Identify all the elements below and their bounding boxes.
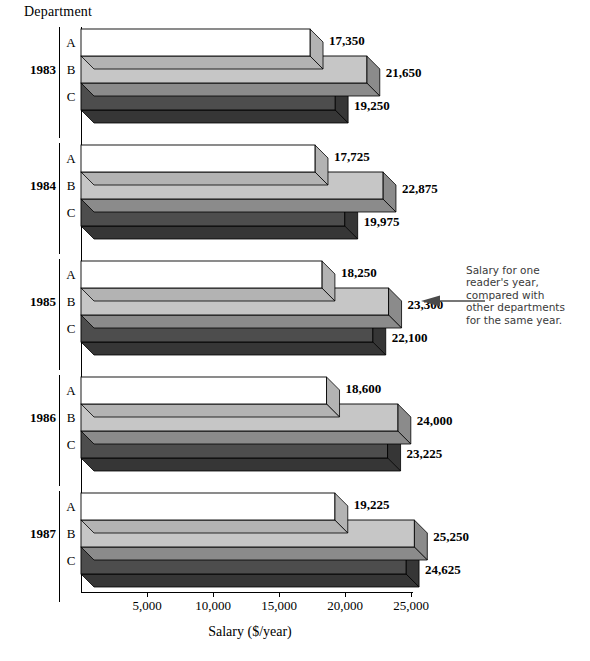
value-label-b-1984: 22,875 xyxy=(402,181,438,197)
value-label-b-1987: 25,250 xyxy=(433,529,469,545)
bar-a-1984 xyxy=(81,145,330,187)
value-label-c-1987: 24,625 xyxy=(425,562,461,578)
dept-label-b: B xyxy=(64,526,78,542)
value-label-a-1983: 17,350 xyxy=(329,33,365,49)
dept-label-b: B xyxy=(64,294,78,310)
x-axis-line xyxy=(81,592,413,593)
dept-label-c: C xyxy=(64,321,78,337)
group-year-label: 1983 xyxy=(12,62,56,78)
value-label-c-1986: 23,225 xyxy=(407,446,443,462)
value-label-a-1985: 18,250 xyxy=(341,265,377,281)
group-bracket xyxy=(59,27,60,138)
group-bracket xyxy=(59,143,60,254)
x-tick xyxy=(345,592,346,597)
dept-label-c: C xyxy=(64,89,78,105)
annotation-line-3: compared with xyxy=(466,289,578,301)
dept-label-a: A xyxy=(64,267,78,283)
value-label-b-1986: 24,000 xyxy=(417,413,453,429)
bar-a-1985 xyxy=(81,261,337,303)
x-tick-label: 15,000 xyxy=(249,598,309,614)
x-tick-label: 5,000 xyxy=(117,598,177,614)
x-tick xyxy=(279,592,280,597)
group-bracket xyxy=(59,491,60,602)
annotation-line-4: other departments xyxy=(466,301,578,313)
bar-a-1983 xyxy=(81,29,325,71)
group-year-label: 1985 xyxy=(12,294,56,310)
value-label-a-1986: 18,600 xyxy=(346,381,382,397)
bar-a-1986 xyxy=(81,377,342,419)
value-label-b-1983: 21,650 xyxy=(386,65,422,81)
group-bracket xyxy=(59,259,60,370)
x-tick xyxy=(411,592,412,597)
x-tick xyxy=(213,592,214,597)
dept-label-b: B xyxy=(64,410,78,426)
salary-bar-chart: Department 5,00010,00015,00020,00025,000… xyxy=(0,0,590,661)
group-year-label: 1984 xyxy=(12,178,56,194)
dept-label-c: C xyxy=(64,205,78,221)
value-label-c-1983: 19,250 xyxy=(354,98,390,114)
dept-label-c: C xyxy=(64,437,78,453)
dept-label-b: B xyxy=(64,62,78,78)
dept-label-c: C xyxy=(64,553,78,569)
dept-label-b: B xyxy=(64,178,78,194)
annotation-line-1: Salary for one xyxy=(466,264,578,276)
value-label-a-1987: 19,225 xyxy=(354,497,390,513)
value-label-c-1984: 19,975 xyxy=(364,214,400,230)
group-bracket xyxy=(59,375,60,486)
x-tick-label: 20,000 xyxy=(315,598,375,614)
annotation-text: Salary for one reader's year, compared w… xyxy=(466,264,578,326)
dept-label-a: A xyxy=(64,383,78,399)
x-axis-title: Salary ($/year) xyxy=(0,624,500,640)
x-tick xyxy=(147,592,148,597)
dept-label-a: A xyxy=(64,151,78,167)
annotation-line-2: reader's year, xyxy=(466,276,578,288)
group-year-label: 1986 xyxy=(12,410,56,426)
x-tick-label: 10,000 xyxy=(183,598,243,614)
annotation-line-5: for the same year. xyxy=(466,314,578,326)
x-tick-label: 25,000 xyxy=(381,598,441,614)
value-label-c-1985: 22,100 xyxy=(392,330,428,346)
group-year-label: 1987 xyxy=(12,526,56,542)
dept-label-a: A xyxy=(64,35,78,51)
bar-a-1987 xyxy=(81,493,350,535)
dept-label-a: A xyxy=(64,499,78,515)
value-label-a-1984: 17,725 xyxy=(334,149,370,165)
y-axis-title: Department xyxy=(24,4,92,20)
